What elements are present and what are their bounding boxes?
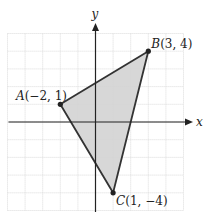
vertex-b-letter: B xyxy=(150,37,160,51)
vertex-c-coords: (1, −4) xyxy=(125,194,167,208)
coordinate-plane: x y A(−2, 1) B(3, 4) C(1, −4) xyxy=(0,0,204,217)
vertex-b xyxy=(146,49,151,54)
vertex-c-letter: C xyxy=(116,194,125,208)
vertex-a-letter: A xyxy=(15,89,25,103)
vertex-b-coords: (3, 4) xyxy=(160,37,192,51)
vertex-a-label: A(−2, 1) xyxy=(15,89,67,103)
x-axis-label: x xyxy=(196,115,203,129)
y-axis-arrow-icon xyxy=(92,23,99,31)
y-axis-label: y xyxy=(91,7,99,21)
vertex-c xyxy=(111,190,116,195)
vertex-b-label: B(3, 4) xyxy=(150,37,192,51)
vertex-c-label: C(1, −4) xyxy=(116,194,168,208)
vertex-a-coords: (−2, 1) xyxy=(25,89,67,103)
x-axis-arrow-icon xyxy=(185,119,193,126)
